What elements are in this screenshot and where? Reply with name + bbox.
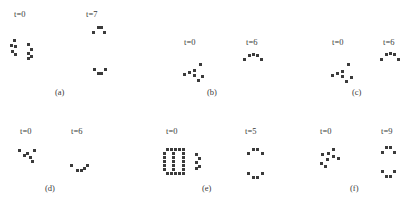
time-label-a-initial: t=0 bbox=[14, 10, 26, 19]
time-label-b-final: t=6 bbox=[246, 38, 258, 47]
time-label-d-final: t=6 bbox=[71, 127, 83, 136]
time-label-e-final: t=5 bbox=[245, 127, 257, 136]
time-label-e-initial: t=0 bbox=[166, 127, 178, 136]
panel-caption-f: (f) bbox=[350, 184, 359, 193]
swarm-aggregation-figure: t=0 t=7 (a) t=0 bbox=[0, 0, 414, 209]
time-label-a-final: t=7 bbox=[86, 10, 98, 19]
time-label-c-final: t=6 bbox=[383, 38, 395, 47]
time-label-d-initial: t=0 bbox=[20, 127, 32, 136]
time-label-c-initial: t=0 bbox=[332, 38, 344, 47]
time-label-f-final: t=9 bbox=[381, 127, 393, 136]
time-label-b-initial: t=0 bbox=[184, 38, 196, 47]
panel-caption-c: (c) bbox=[352, 88, 361, 97]
panel-caption-a: (a) bbox=[55, 88, 64, 97]
panel-caption-b: (b) bbox=[207, 88, 217, 97]
panel-caption-d: (d) bbox=[45, 184, 55, 193]
panel-caption-e: (e) bbox=[202, 184, 211, 193]
time-label-f-initial: t=0 bbox=[320, 127, 332, 136]
